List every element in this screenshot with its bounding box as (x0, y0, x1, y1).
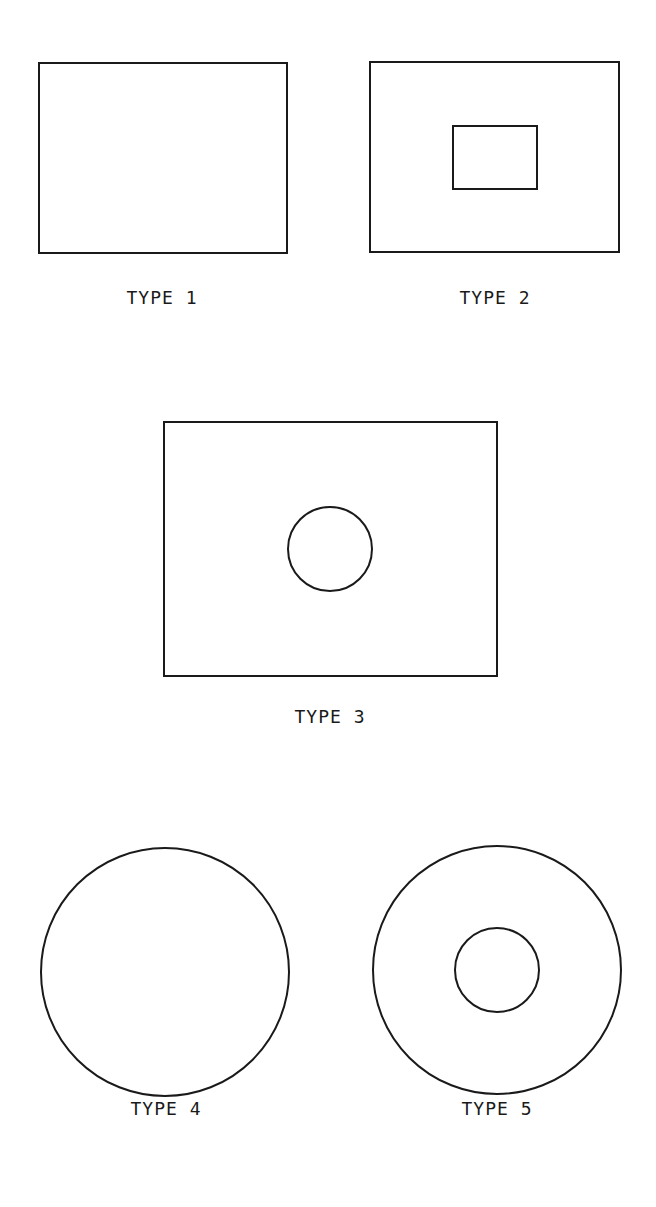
type-4-outer-circle (41, 848, 289, 1096)
type-1-figure (39, 63, 287, 253)
type-1-label: TYPE 1 (126, 287, 197, 308)
type-3-figure (164, 422, 497, 676)
type-2-label: TYPE 2 (459, 287, 530, 308)
type-5-figure (373, 846, 621, 1094)
type-5-inner-circle (455, 928, 539, 1012)
type-3-outer-rectangle (164, 422, 497, 676)
type-2-outer-rectangle (370, 62, 619, 252)
type-5-outer-circle (373, 846, 621, 1094)
type-4-figure (41, 848, 289, 1096)
type-2-figure (370, 62, 619, 252)
diagram-canvas (0, 0, 656, 1207)
type-4-label: TYPE 4 (130, 1098, 201, 1119)
type-1-outer-rectangle (39, 63, 287, 253)
type-5-label: TYPE 5 (461, 1098, 532, 1119)
type-3-label: TYPE 3 (294, 706, 365, 727)
type-2-inner-rectangle (453, 126, 537, 189)
type-3-inner-circle (288, 507, 372, 591)
